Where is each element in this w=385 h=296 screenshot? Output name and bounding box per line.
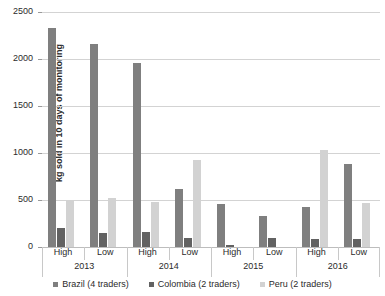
category-separator: [338, 247, 339, 260]
bar: [311, 239, 319, 247]
y-tick-mark: [38, 106, 42, 107]
bar: [217, 204, 225, 247]
bar-chart: kg sold in 10 days of monitoring 0500100…: [0, 0, 385, 296]
bar: [48, 28, 56, 247]
legend-swatch-icon: [260, 282, 265, 287]
legend-label: Brazil (4 traders): [62, 279, 129, 289]
legend-label: Peru (2 traders): [269, 279, 332, 289]
bar: [259, 216, 267, 247]
category-label-low: Low: [169, 247, 211, 257]
y-tick-label: 500: [0, 194, 33, 204]
legend-swatch-icon: [53, 282, 58, 287]
bar: [362, 203, 370, 247]
y-tick-label: 1500: [0, 100, 33, 110]
bar: [66, 200, 74, 247]
bar: [151, 202, 159, 247]
legend-item: Colombia (2 traders): [149, 279, 240, 289]
bar: [133, 63, 141, 247]
category-separator: [169, 247, 170, 260]
y-tick-mark: [38, 153, 42, 154]
bar: [302, 207, 310, 247]
chart-legend: Brazil (4 traders)Colombia (2 traders)Pe…: [0, 279, 385, 289]
category-label-low: Low: [84, 247, 126, 257]
year-label-2016: 2016: [296, 261, 381, 271]
category-label-high: High: [127, 247, 169, 257]
category-separator: [84, 247, 85, 260]
category-label-high: High: [211, 247, 253, 257]
category-label-high: High: [42, 247, 84, 257]
group-separator: [211, 247, 212, 277]
y-tick-mark: [38, 12, 42, 13]
y-tick-mark: [38, 59, 42, 60]
group-separator: [42, 247, 43, 277]
bar: [268, 238, 276, 247]
y-tick-label: 2000: [0, 53, 33, 63]
category-axis: HighLowHighLowHighLowHighLow201320142015…: [42, 247, 380, 277]
bar: [353, 239, 361, 247]
bar: [175, 189, 183, 247]
bar: [90, 44, 98, 247]
legend-swatch-icon: [149, 282, 154, 287]
category-label-high: High: [296, 247, 338, 257]
plot-area: 05001000150020002500: [42, 12, 380, 247]
bar: [57, 228, 65, 247]
year-label-2014: 2014: [127, 261, 212, 271]
group-separator: [127, 247, 128, 277]
category-label-low: Low: [253, 247, 295, 257]
y-tick-label: 0: [0, 241, 33, 251]
bar: [108, 198, 116, 247]
y-tick-label: 2500: [0, 6, 33, 16]
group-separator: [379, 247, 380, 277]
year-label-2013: 2013: [42, 261, 127, 271]
bar: [344, 164, 352, 247]
bar: [193, 160, 201, 247]
category-label-low: Low: [338, 247, 380, 257]
bar: [99, 233, 107, 247]
bar: [142, 232, 150, 247]
category-separator: [253, 247, 254, 260]
legend-item: Peru (2 traders): [260, 279, 332, 289]
year-label-2015: 2015: [211, 261, 296, 271]
y-tick-label: 1000: [0, 147, 33, 157]
bar: [184, 238, 192, 247]
gridline-2500: [42, 12, 380, 13]
legend-item: Brazil (4 traders): [53, 279, 129, 289]
y-tick-mark: [38, 200, 42, 201]
group-separator: [296, 247, 297, 277]
bar: [320, 150, 328, 247]
legend-label: Colombia (2 traders): [158, 279, 240, 289]
